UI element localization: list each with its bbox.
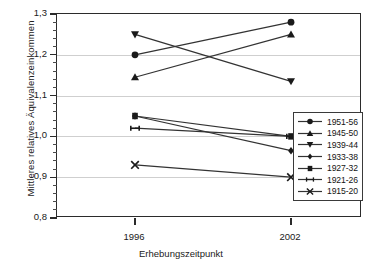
y-tick-label: 0,9 [3, 170, 47, 181]
legend-label: 1921-26 [323, 175, 358, 185]
chart-figure: Mittleres relatives Äquivalenzeinkommen … [0, 0, 375, 269]
x-tick [134, 218, 135, 225]
legend-marker-icon [297, 174, 323, 185]
legend-marker-icon [297, 128, 323, 139]
series-1939-44 [131, 31, 295, 85]
data-point [287, 30, 295, 37]
data-point [288, 19, 295, 26]
y-axis-title: Mittleres relatives Äquivalenzeinkommen [25, 1, 36, 216]
y-tick-major [50, 95, 57, 96]
x-tick [290, 218, 291, 225]
data-point [132, 113, 138, 119]
legend-label: 1933-38 [323, 152, 358, 162]
chart-legend: 1951-561945-501939-441933-381927-321921-… [293, 112, 363, 201]
y-tick-label: 1,0 [3, 129, 47, 140]
legend-marker-icon [297, 139, 323, 150]
y-tick-label: 1,1 [3, 89, 47, 100]
legend-label: 1915-20 [323, 186, 358, 196]
legend-item-1921-26[interactable]: 1921-26 [297, 174, 358, 186]
legend-marker-icon [297, 116, 323, 127]
y-tick-major [50, 177, 57, 178]
legend-label: 1939-44 [323, 140, 358, 150]
legend-label: 1951-56 [323, 117, 358, 127]
series-1921-26 [131, 126, 295, 139]
series-line [135, 128, 291, 136]
legend-label: 1945-50 [323, 128, 358, 138]
legend-label: 1927-32 [323, 163, 358, 173]
x-tick-label: 2002 [255, 231, 325, 242]
legend-item-1933-38[interactable]: 1933-38 [297, 151, 358, 163]
y-tick-label: 0,8 [3, 211, 47, 222]
data-point [287, 78, 295, 85]
data-point [131, 126, 139, 131]
y-tick-label: 1,3 [3, 7, 47, 18]
y-tick-major [50, 136, 57, 137]
series-1951-56 [132, 19, 295, 58]
legend-item-1951-56[interactable]: 1951-56 [297, 116, 358, 128]
legend-item-1927-32[interactable]: 1927-32 [297, 162, 358, 174]
series-1915-20 [131, 161, 295, 181]
legend-item-1945-50[interactable]: 1945-50 [297, 128, 358, 140]
data-point [132, 51, 139, 58]
legend-marker-icon [297, 163, 323, 174]
series-line [135, 22, 291, 55]
series-line [135, 165, 291, 177]
y-tick-major [50, 217, 57, 218]
x-tick-label: 1996 [99, 231, 169, 242]
legend-item-1915-20[interactable]: 1915-20 [297, 186, 358, 198]
legend-item-1939-44[interactable]: 1939-44 [297, 139, 358, 151]
legend-marker-icon [297, 151, 323, 162]
legend-marker-icon [297, 186, 323, 197]
y-tick-label: 1,2 [3, 48, 47, 59]
x-axis-title: Erhebungszeitpunkt [56, 248, 306, 259]
y-tick-major [50, 13, 57, 14]
y-tick-major [50, 54, 57, 55]
